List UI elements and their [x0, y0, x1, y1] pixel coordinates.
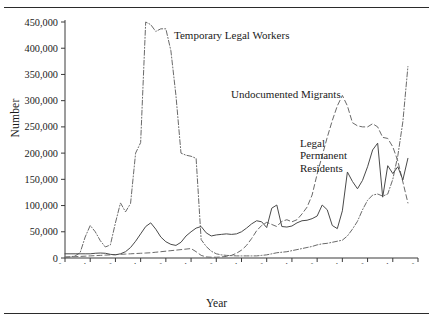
x-tick-label: 1955: [120, 261, 142, 264]
y-tick-label: 200,000: [25, 148, 58, 159]
x-tick-label: 1945: [70, 261, 92, 264]
annotation-legal-permanent-residents: Legal Permanent Residents: [300, 137, 347, 174]
series-line: [65, 22, 408, 257]
y-tick-label: 100,000: [25, 200, 58, 211]
x-tick-label: 1990: [297, 261, 319, 264]
figure-container: 050,000100,000150,000200,000250,000300,0…: [0, 0, 433, 326]
x-tick-label: 2000: [347, 261, 369, 264]
y-tick-label: 450,000: [25, 17, 58, 28]
x-tick-label: 1995: [322, 261, 344, 264]
annotation-temporary-legal-workers: Temporary Legal Workers: [174, 29, 289, 41]
series-line: [65, 143, 408, 255]
x-tick-label: 1975: [221, 261, 243, 264]
bottom-rule: [4, 313, 429, 314]
x-tick-label: 1965: [171, 261, 193, 264]
x-tick-label: 1980: [246, 261, 268, 264]
annotation-undocumented-migrants: Undocumented Migrants: [231, 88, 341, 100]
y-tick-label: 400,000: [25, 43, 58, 54]
y-tick-label: 50,000: [30, 226, 58, 237]
y-tick-label: 250,000: [25, 121, 58, 132]
y-tick-label: 150,000: [25, 174, 58, 185]
y-axis-title: Number: [9, 83, 21, 153]
y-tick-label: 300,000: [25, 95, 58, 106]
x-tick-label: 1970: [196, 261, 218, 264]
top-rule: [4, 7, 429, 8]
x-tick-label: 1950: [95, 261, 117, 264]
x-tick-label: 2010: [397, 261, 419, 264]
x-tick-label: 1960: [145, 261, 167, 264]
x-tick-label: 1985: [271, 261, 293, 264]
series-line: [65, 95, 408, 257]
x-axis-title: Year: [0, 297, 433, 309]
y-tick-label: 350,000: [25, 69, 58, 80]
plot-area: 050,000100,000150,000200,000250,000300,0…: [0, 14, 433, 264]
line-chart: 050,000100,000150,000200,000250,000300,0…: [0, 14, 433, 264]
x-tick-label: 2005: [372, 261, 394, 264]
